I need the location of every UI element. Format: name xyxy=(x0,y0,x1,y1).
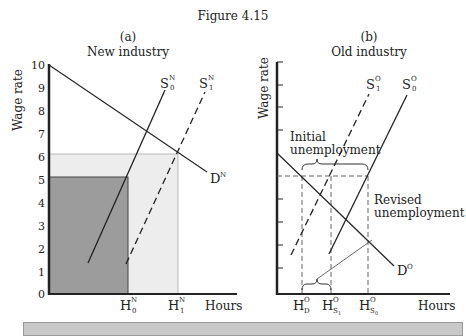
S1O-label: S O 1 xyxy=(366,75,381,93)
svg-text:N: N xyxy=(179,296,185,304)
panel-a-title: New industry xyxy=(87,45,169,59)
svg-text:N: N xyxy=(131,296,137,304)
svg-text:N: N xyxy=(208,74,214,82)
svg-text:O: O xyxy=(411,75,417,83)
svg-text:H: H xyxy=(293,298,304,313)
panel-b-label: (b) xyxy=(360,30,377,44)
svg-text:D: D xyxy=(210,171,220,186)
S0O-label: S O 0 xyxy=(402,75,417,93)
HS1O-label: H O S 1 xyxy=(322,296,341,316)
svg-text:9: 9 xyxy=(38,82,45,95)
panel-a: (a) New industry Wage rate 10 9 8 7 6 5 … xyxy=(11,30,242,315)
panel-b: (b) Old industry Wage rate xyxy=(257,30,465,316)
svg-text:0: 0 xyxy=(412,85,416,93)
svg-text:1: 1 xyxy=(180,307,184,315)
DO-label: D O xyxy=(397,263,413,278)
svg-text:O: O xyxy=(333,296,339,304)
region-wage5 xyxy=(49,177,128,294)
svg-text:1: 1 xyxy=(338,310,341,316)
panel-b-guides xyxy=(277,176,368,294)
panel-a-xlabel: Hours xyxy=(205,299,242,313)
svg-text:0: 0 xyxy=(38,288,45,301)
H1N-label: H N 1 xyxy=(168,296,185,315)
panel-b-title: Old industry xyxy=(331,45,407,59)
svg-text:H: H xyxy=(168,298,179,313)
revised-unemployment-pointer xyxy=(317,240,372,279)
svg-text:0: 0 xyxy=(375,310,378,316)
svg-text:0: 0 xyxy=(170,84,174,92)
svg-text:2: 2 xyxy=(38,243,45,256)
svg-text:H: H xyxy=(359,298,370,313)
DN-label: D N xyxy=(210,171,226,186)
svg-text:H: H xyxy=(120,298,131,313)
svg-text:10: 10 xyxy=(31,59,45,72)
figure-title: Figure 4.15 xyxy=(198,9,269,23)
svg-text:N: N xyxy=(169,74,175,82)
svg-text:O: O xyxy=(375,75,381,83)
svg-text:3: 3 xyxy=(38,220,45,233)
panel-b-xlabel: Hours xyxy=(418,299,455,313)
initial-unemployment-brace xyxy=(302,159,368,170)
panel-a-label: (a) xyxy=(120,30,137,44)
svg-text:N: N xyxy=(220,171,226,179)
svg-text:0: 0 xyxy=(132,307,136,315)
initial-unemployment-line1: Initial xyxy=(290,130,326,144)
S1N-label: S N 1 xyxy=(199,74,214,92)
svg-text:S: S xyxy=(366,77,375,92)
panel-a-ylabel: Wage rate xyxy=(11,69,25,131)
svg-text:O: O xyxy=(407,263,413,271)
svg-text:5: 5 xyxy=(38,174,45,187)
S0N-label: S N 0 xyxy=(160,74,175,92)
svg-text:4: 4 xyxy=(38,197,45,210)
svg-text:S: S xyxy=(402,77,411,92)
svg-text:O: O xyxy=(304,296,310,304)
svg-text:O: O xyxy=(370,296,376,304)
svg-text:8: 8 xyxy=(38,105,45,118)
caption-bar xyxy=(23,322,463,336)
svg-text:S: S xyxy=(160,76,169,91)
svg-text:D: D xyxy=(397,263,407,278)
svg-text:D: D xyxy=(304,307,310,315)
HDO-label: H O D xyxy=(293,296,310,315)
svg-text:S: S xyxy=(199,76,208,91)
svg-text:1: 1 xyxy=(209,84,213,92)
svg-text:6: 6 xyxy=(38,151,45,164)
svg-text:H: H xyxy=(322,298,333,313)
panel-b-ylabel: Wage rate xyxy=(257,57,271,119)
revised-unemployment-line1: Revised xyxy=(374,193,422,207)
HS0O-label: H O S 0 xyxy=(359,296,378,316)
H0N-label: H N 0 xyxy=(120,296,137,315)
supply-curve-S0O xyxy=(329,95,407,254)
revised-unemployment-brace xyxy=(302,279,331,290)
initial-unemployment-line2: unemployment xyxy=(290,143,381,157)
svg-text:1: 1 xyxy=(376,85,380,93)
revised-unemployment-line2: unemployment xyxy=(374,206,465,220)
panel-a-yticks: 10 9 8 7 6 5 4 3 2 1 0 xyxy=(31,59,45,301)
svg-text:7: 7 xyxy=(38,128,45,141)
svg-text:1: 1 xyxy=(38,266,45,279)
